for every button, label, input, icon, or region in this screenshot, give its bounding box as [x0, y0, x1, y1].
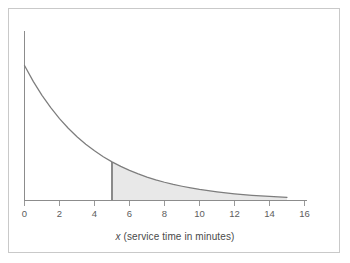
x-axis-label: x (service time in minutes): [0, 231, 350, 242]
shaded-tail-area: [112, 162, 287, 201]
tick-label-14: 14: [264, 208, 275, 219]
tick-label-8: 8: [162, 208, 167, 219]
exp-curve-main: [25, 66, 288, 198]
x-axis-label-text: (service time in minutes): [121, 231, 235, 242]
x-axis-tick-labels: 0 2 4 6 8 10 12 14 16: [22, 208, 310, 219]
chart-figure: 0 2 4 6 8 10 12 14 16 x (service time in…: [0, 0, 350, 263]
tick-label-12: 12: [229, 208, 240, 219]
tick-label-2: 2: [57, 208, 62, 219]
x-axis-ticks: [25, 201, 305, 207]
tick-label-6: 6: [127, 208, 132, 219]
tick-label-10: 10: [194, 208, 205, 219]
exponential-density-plot: 0 2 4 6 8 10 12 14 16: [0, 0, 350, 263]
tick-label-0: 0: [22, 208, 27, 219]
tick-label-4: 4: [92, 208, 97, 219]
tick-label-16: 16: [299, 208, 310, 219]
